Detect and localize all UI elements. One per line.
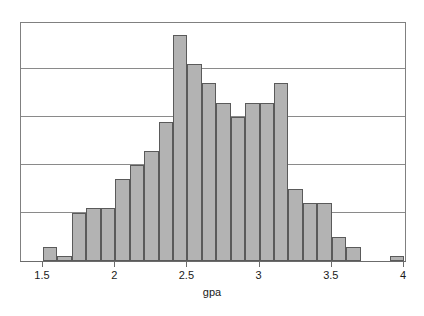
histogram-bar bbox=[144, 151, 158, 261]
histogram-bar bbox=[159, 122, 173, 261]
x-tick-mark bbox=[403, 262, 404, 267]
histogram-bar bbox=[231, 117, 245, 261]
histogram-bar bbox=[216, 103, 230, 261]
x-tick-mark bbox=[114, 262, 115, 267]
histogram-bar bbox=[260, 103, 274, 261]
histogram-bar bbox=[332, 237, 346, 261]
x-tick-label: 1.5 bbox=[34, 269, 49, 282]
x-tick-label: 3 bbox=[256, 269, 262, 282]
histogram-bar bbox=[187, 64, 201, 261]
x-tick-mark bbox=[42, 262, 43, 267]
histogram-bar bbox=[274, 83, 288, 261]
x-axis-label: gpa bbox=[0, 286, 424, 299]
histogram-bar bbox=[202, 83, 216, 261]
histogram-bar bbox=[86, 208, 100, 261]
histogram-bar bbox=[72, 213, 86, 261]
histogram-bar bbox=[101, 208, 115, 261]
x-tick-label: 4 bbox=[400, 269, 406, 282]
histogram-figure: 1.522.533.54 gpa bbox=[0, 0, 424, 316]
histogram-bar bbox=[245, 103, 259, 261]
plot-area bbox=[20, 22, 406, 262]
histogram-bar bbox=[130, 165, 144, 261]
x-tick-mark bbox=[186, 262, 187, 267]
x-tick-label: 3.5 bbox=[323, 269, 338, 282]
histogram-bar bbox=[115, 179, 129, 261]
x-tick-mark bbox=[331, 262, 332, 267]
histogram-bar bbox=[173, 35, 187, 261]
histogram-bar bbox=[346, 247, 360, 261]
x-tick-mark bbox=[259, 262, 260, 267]
x-tick-label: 2.5 bbox=[179, 269, 194, 282]
histogram-bar bbox=[43, 247, 57, 261]
histogram-bar bbox=[303, 203, 317, 261]
x-tick-label: 2 bbox=[111, 269, 117, 282]
histogram-bars bbox=[21, 23, 405, 261]
histogram-bar bbox=[288, 189, 302, 261]
x-axis-line bbox=[20, 261, 406, 262]
histogram-bar bbox=[317, 203, 331, 261]
